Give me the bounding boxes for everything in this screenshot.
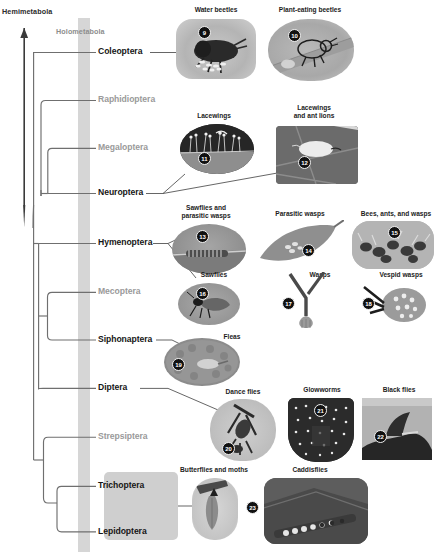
branch-lines <box>33 52 96 532</box>
taxon-trichoptera[interactable]: Trichoptera <box>98 481 144 490</box>
caption-plant-eating-beetles: Plant-eating beetles <box>262 6 358 14</box>
badge-13: 13 <box>196 230 209 243</box>
badge-16: 16 <box>196 287 209 300</box>
photo-sawflies-parasitic-wasps[interactable]: 13 <box>172 224 246 274</box>
badge-12: 12 <box>298 156 311 169</box>
photo-parasitic-wasps[interactable]: 14 <box>258 220 344 274</box>
hemimetabola-axis-label: Hemimetabola <box>2 8 52 15</box>
hemimetabola-axis <box>20 28 28 227</box>
photo-black-flies[interactable]: 22 <box>362 398 432 460</box>
caption-sawflies: Sawflies <box>186 271 242 279</box>
caption-black-flies: Black flies <box>368 386 430 394</box>
taxon-neuroptera[interactable]: Neuroptera <box>98 188 143 197</box>
caption-bees-ants-and-wasps: Bees, ants, and wasps <box>354 210 438 218</box>
photo-fleas[interactable]: 19 <box>164 338 240 386</box>
badge-21: 21 <box>314 404 327 417</box>
caption-sawflies-parasitic-wasps: Sawflies and parasitic wasps <box>166 204 246 220</box>
caption-water-beetles: Water beetles <box>180 6 252 14</box>
caption-vespid-wasps: Vespid wasps <box>368 271 434 279</box>
photo-vespid-wasps[interactable]: 18 <box>362 283 428 327</box>
caption-lacewings: Lacewings <box>178 112 250 120</box>
photo-butterflies-and-moths[interactable] <box>192 478 238 540</box>
taxon-coleoptera[interactable]: Coleoptera <box>98 47 142 56</box>
caption-butterflies-and-moths: Butterflies and moths <box>164 466 264 474</box>
taxon-raphidioptera[interactable]: Raphidioptera <box>98 95 155 104</box>
taxon-hymenoptera[interactable]: Hymenoptera <box>98 238 152 247</box>
taxon-strepsiptera[interactable]: Strepsiptera <box>98 432 148 441</box>
badge-10: 10 <box>288 29 301 42</box>
caption-glowworms: Glowworms <box>288 386 356 394</box>
photo-glowworms[interactable]: 21 <box>288 398 354 462</box>
holometabola-band-label: Holometabola <box>56 28 105 35</box>
badge-18: 18 <box>362 297 375 310</box>
badge-11: 11 <box>198 152 211 165</box>
taxon-diptera[interactable]: Diptera <box>98 383 127 392</box>
caption-lacewings-and-ant-lions: Lacewings and ant lions <box>272 104 356 120</box>
photo-bees-ants-and-wasps[interactable]: 15 <box>352 221 434 269</box>
caption-dance-flies: Dance flies <box>212 388 274 396</box>
badge-15: 15 <box>388 226 401 239</box>
caption-caddisflies: Caddisflies <box>276 466 344 474</box>
photo-dance-flies[interactable]: 20 <box>210 399 276 461</box>
badge-19: 19 <box>172 358 185 371</box>
photo-plant-eating-beetles[interactable]: 10 <box>268 19 354 81</box>
photo-sawflies[interactable]: 16 <box>178 283 240 325</box>
badge-20: 20 <box>222 442 235 455</box>
taxon-siphonaptera[interactable]: Siphonaptera <box>98 335 152 344</box>
badge-22: 22 <box>374 430 387 443</box>
badge-23: 23 <box>246 501 259 514</box>
photo-lacewings-and-ant-lions[interactable]: 12 <box>276 126 358 184</box>
photo-water-beetles[interactable]: 9 <box>176 19 256 79</box>
badge-14: 14 <box>302 244 315 257</box>
photo-lacewings[interactable]: 11 <box>180 124 254 174</box>
taxon-lepidoptera[interactable]: Lepidoptera <box>98 527 147 536</box>
caption-parasitic-wasps: Parasitic wasps <box>262 210 338 218</box>
photo-wasps[interactable]: 17 <box>280 272 342 328</box>
badge-9: 9 <box>198 26 211 39</box>
photo-caddisflies[interactable] <box>264 478 368 544</box>
figure-canvas: Hemimetabola Holometabola Coleoptera Rap… <box>0 0 438 552</box>
taxon-megaloptera[interactable]: Megaloptera <box>98 143 148 152</box>
badge-17: 17 <box>282 297 295 310</box>
taxon-mecoptera[interactable]: Mecoptera <box>98 287 141 296</box>
